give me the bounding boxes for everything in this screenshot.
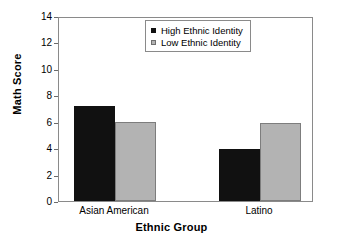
y-axis-ticks: 02468101214 (18, 0, 52, 241)
bar (219, 149, 260, 201)
legend-item-label: Low Ethnic Identity (161, 37, 241, 48)
y-tick-label: 8 (18, 91, 52, 101)
x-tick-label: Latino (245, 205, 272, 216)
legend-item: High Ethnic Identity (151, 24, 243, 36)
bar (115, 122, 156, 201)
x-tick-label: Asian American (79, 205, 148, 216)
bar-chart: Math Score 02468101214 Asian AmericanLat… (0, 0, 343, 241)
y-tick-mark (54, 202, 58, 203)
y-tick-label: 12 (18, 38, 52, 48)
y-tick-label: 4 (18, 144, 52, 154)
y-tick-label: 0 (18, 197, 52, 207)
y-tick-label: 10 (18, 65, 52, 75)
black-square-icon (151, 28, 156, 33)
x-axis-title: Ethnic Group (0, 221, 343, 233)
legend-item: Low Ethnic Identity (151, 36, 243, 48)
legend: High Ethnic Identity Low Ethnic Identity (145, 20, 251, 52)
bar (260, 123, 301, 201)
y-tick-label: 6 (18, 118, 52, 128)
legend-item-label: High Ethnic Identity (161, 25, 243, 36)
gray-square-icon (151, 40, 156, 45)
bar (74, 106, 115, 201)
y-tick-label: 14 (18, 12, 52, 22)
y-tick-label: 2 (18, 171, 52, 181)
